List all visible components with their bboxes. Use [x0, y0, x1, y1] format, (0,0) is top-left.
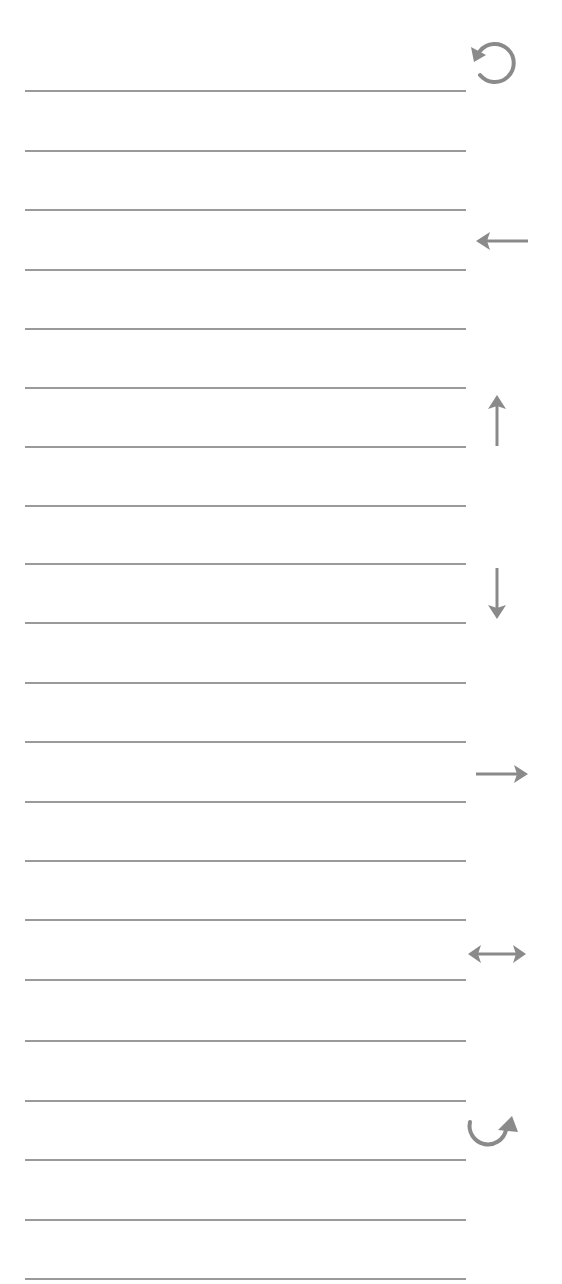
ruled-line	[25, 1159, 466, 1161]
ruled-line	[25, 505, 466, 507]
ruled-line	[25, 90, 466, 92]
arrow-left-icon[interactable]	[474, 228, 530, 254]
arrow-left-right-icon[interactable]	[466, 941, 528, 967]
rotate-clockwise-icon[interactable]	[466, 1112, 526, 1156]
ruled-line	[25, 860, 466, 862]
ruled-line	[25, 622, 466, 624]
ruled-line	[25, 979, 466, 981]
ruled-line	[25, 682, 466, 684]
ruled-line	[25, 387, 466, 389]
arrow-right-icon[interactable]	[474, 761, 530, 787]
ruled-line	[25, 209, 466, 211]
ruled-line	[25, 1040, 466, 1042]
rotate-counterclockwise-icon[interactable]	[466, 35, 526, 87]
ruled-line	[25, 446, 466, 448]
ruled-line	[25, 919, 466, 921]
ruled-line	[25, 741, 466, 743]
ruled-line	[25, 328, 466, 330]
ruled-line	[25, 1219, 466, 1221]
arrow-up-icon[interactable]	[484, 393, 510, 447]
ruled-line	[25, 1100, 466, 1102]
ruled-line	[25, 150, 466, 152]
ruled-line	[25, 1278, 466, 1280]
ruled-line	[25, 269, 466, 271]
ruled-line	[25, 563, 466, 565]
arrow-down-icon[interactable]	[484, 567, 510, 621]
ruled-line	[25, 801, 466, 803]
